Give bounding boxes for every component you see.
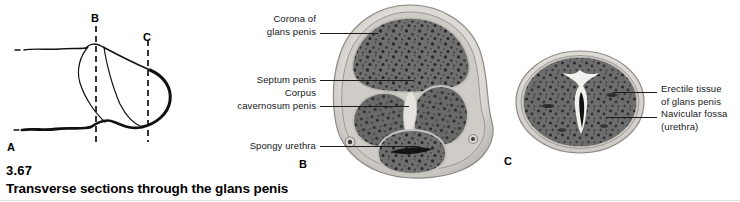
label-septum-penis-line1: Septum penis bbox=[176, 74, 316, 87]
glans-base-line bbox=[104, 47, 142, 127]
label-spongy-urethra-line1: Spongy urethra bbox=[176, 140, 316, 153]
label-erectile-tissue-of-glans-penis: Erectile tissue of glans penis bbox=[661, 83, 739, 108]
vessel-right-lumen bbox=[471, 137, 475, 141]
figure-container: B C A bbox=[0, 0, 740, 202]
panel-c-section-drawing bbox=[512, 48, 648, 156]
panel-letter-a: A bbox=[7, 141, 15, 153]
label-corona-line1: Corona of bbox=[176, 13, 316, 26]
panel-letter-c: C bbox=[504, 155, 512, 167]
leader-line-spongy-urethra bbox=[320, 146, 419, 147]
label-septum-penis: Septum penis bbox=[176, 74, 316, 87]
label-navicular-fossa-line2: (urethra) bbox=[661, 121, 739, 134]
broken-edge-marks bbox=[14, 50, 20, 130]
panel-a-line-diagram: B C bbox=[0, 0, 200, 160]
label-erectile-tissue-line2: of glans penis bbox=[661, 96, 739, 109]
label-corpus-cavernosum-penis: Corpus cavernosum penis bbox=[176, 87, 316, 112]
section-mark-label-c: C bbox=[143, 31, 151, 43]
label-navicular-fossa-line1: Navicular fossa bbox=[661, 108, 739, 121]
vessel-profile-lower-left bbox=[558, 128, 566, 132]
leader-line-erectile-tissue bbox=[613, 92, 657, 93]
section-mark-label-b: B bbox=[91, 12, 99, 24]
panel-c-micrograph bbox=[512, 48, 648, 156]
glans-distal-outline bbox=[142, 70, 170, 127]
vessel-profile-lower-right bbox=[600, 124, 608, 128]
label-navicular-fossa-urethra: Navicular fossa (urethra) bbox=[661, 108, 739, 133]
leader-line-corpus-cavernosum bbox=[320, 106, 409, 107]
panel-letter-b: B bbox=[299, 158, 307, 170]
label-corpus-cavernosum-line2: cavernosum penis bbox=[176, 100, 316, 113]
shaft-dorsal-outline bbox=[24, 48, 86, 50]
label-corona-line2: glans penis bbox=[176, 26, 316, 39]
bottom-divider bbox=[0, 200, 740, 201]
vessel-profile-right bbox=[607, 93, 617, 97]
figure-caption-title: Transverse sections through the glans pe… bbox=[6, 181, 288, 196]
label-erectile-tissue-line1: Erectile tissue bbox=[661, 83, 739, 96]
panel-b-section-drawing bbox=[326, 2, 498, 182]
micrograph-credit-mark bbox=[444, 164, 445, 170]
vessel-left-lumen bbox=[348, 140, 352, 144]
label-corona-of-glans-penis: Corona of glans penis bbox=[176, 13, 316, 38]
vessel-profile-left bbox=[542, 104, 554, 108]
corona-groove-line bbox=[78, 47, 105, 122]
panel-b-micrograph bbox=[326, 2, 498, 182]
leader-line-septum-penis bbox=[320, 80, 414, 81]
panel-a-drawing bbox=[0, 0, 200, 160]
leader-line-corona bbox=[320, 33, 378, 34]
leader-line-navicular-fossa bbox=[606, 117, 657, 118]
glans-ventral-outline bbox=[91, 120, 142, 128]
shaft-ventral-outline bbox=[22, 127, 91, 130]
label-corpus-cavernosum-line1: Corpus bbox=[176, 87, 316, 100]
label-spongy-urethra: Spongy urethra bbox=[176, 140, 316, 153]
figure-number: 3.67 bbox=[6, 163, 32, 178]
